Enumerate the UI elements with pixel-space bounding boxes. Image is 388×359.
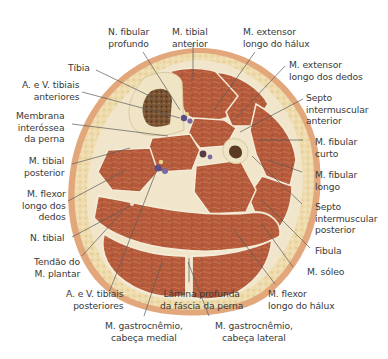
- label-membrana-interossea: Membrana interóssea da perna: [16, 110, 64, 145]
- label-n-tibial: N. tibial: [30, 232, 65, 244]
- label-septo-intermuscular-anterior: Septo intermuscular anterior: [306, 92, 368, 127]
- label-lamina-profunda-fascia: Lâmina profunda da fáscia da perna: [160, 288, 243, 311]
- label-m-fibular-curto: M. fibular curto: [315, 136, 357, 159]
- label-m-extensor-longo-halux: M. extensor longo do hálux: [243, 26, 310, 49]
- label-n-fibular-profundo: N. fibular profundo: [108, 26, 149, 49]
- label-septo-intermuscular-posterior: Septo intermuscular posterior: [315, 201, 377, 236]
- label-tibia: Tíbia: [68, 62, 90, 74]
- label-m-tibial-anterior: M. tibial anterior: [172, 26, 208, 49]
- label-m-soleo: M. sóleo: [307, 266, 344, 278]
- label-a-v-tibiais-posteriores: A. e V. tibiais posteriores: [66, 288, 124, 311]
- label-m-flexor-longo-dedos: M. flexor longo dos dedos: [22, 188, 66, 223]
- label-m-tibial-posterior: M. tibial posterior: [24, 155, 64, 178]
- label-m-gastrocnemio-lateral: M. gastrocnêmio, cabeça lateral: [215, 320, 293, 343]
- label-a-v-tibiais-anteriores: A. e V. tibiais anteriores: [22, 79, 80, 102]
- label-tendao-m-plantar: Tendão do M. plantar: [34, 256, 80, 279]
- leg-cross-section-figure: N. fibular profundo M. tibial anterior M…: [0, 0, 388, 359]
- fibula-bone: [223, 139, 248, 164]
- label-m-flexor-longo-halux: M. flexor longo do hálux: [268, 288, 335, 311]
- label-m-fibular-longo: M. fibular longo: [315, 169, 357, 192]
- label-m-extensor-longo-dedos: M. extensor longo dos dedos: [289, 59, 363, 82]
- label-fibula: Fibula: [315, 245, 341, 257]
- label-m-gastrocnemio-medial: M. gastrocnêmio, cabeça medial: [105, 320, 183, 343]
